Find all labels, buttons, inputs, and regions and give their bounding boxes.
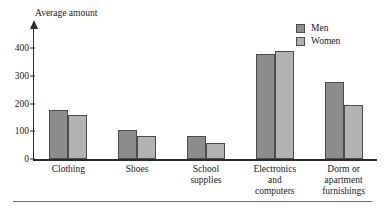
clipped-caption-text (36, 0, 366, 5)
plot-area: 0100200300400 ClothingShoesSchool suppli… (34, 48, 378, 159)
y-tick-label: 300 (15, 71, 29, 81)
bar-women[interactable] (344, 105, 363, 159)
legend-item-men[interactable]: Men (296, 22, 340, 35)
legend-label-men: Men (311, 23, 328, 34)
bar-men[interactable] (118, 130, 137, 159)
bar-pair (103, 48, 172, 159)
y-tick-label: 200 (15, 99, 29, 109)
legend-label-women: Women (311, 36, 340, 47)
y-axis-title: Average amount (35, 8, 97, 19)
bar-men[interactable] (187, 136, 206, 159)
bar-group: School supplies (172, 48, 241, 159)
bar-group: Clothing (34, 48, 103, 159)
bar-men[interactable] (256, 54, 275, 159)
bar-pair (34, 48, 103, 159)
y-axis-arrow-icon (30, 20, 38, 29)
x-category-label: School supplies (190, 164, 221, 186)
y-tick-label: 0 (24, 154, 29, 164)
bar-women[interactable] (137, 136, 156, 159)
bar-pair (240, 48, 309, 159)
bar-men[interactable] (325, 82, 344, 159)
bottom-rule (13, 201, 372, 202)
bar-women[interactable] (275, 51, 294, 159)
x-axis-line (33, 159, 377, 161)
bar-group: Electronics and computers (240, 48, 309, 159)
bar-women[interactable] (68, 115, 87, 159)
legend-item-women[interactable]: Women (296, 35, 340, 48)
bar-pair (309, 48, 378, 159)
x-category-label: Shoes (126, 164, 149, 175)
bar-pair (172, 48, 241, 159)
legend: Men Women (296, 22, 340, 48)
bar-group: Shoes (103, 48, 172, 159)
bar-group: Dorm or apartment furnishings (309, 48, 378, 159)
y-tick-label: 400 (15, 43, 29, 53)
x-category-label: Electronics and computers (253, 164, 296, 197)
x-category-label: Dorm or apartment furnishings (322, 164, 365, 197)
bar-chart-figure: Average amount 0100200300400 ClothingSho… (0, 0, 385, 214)
bar-women[interactable] (206, 143, 225, 159)
x-category-label: Clothing (52, 164, 85, 175)
legend-swatch-women-icon (296, 37, 305, 46)
legend-swatch-men-icon (296, 24, 305, 33)
bar-men[interactable] (49, 110, 68, 159)
y-tick-label: 100 (15, 126, 29, 136)
